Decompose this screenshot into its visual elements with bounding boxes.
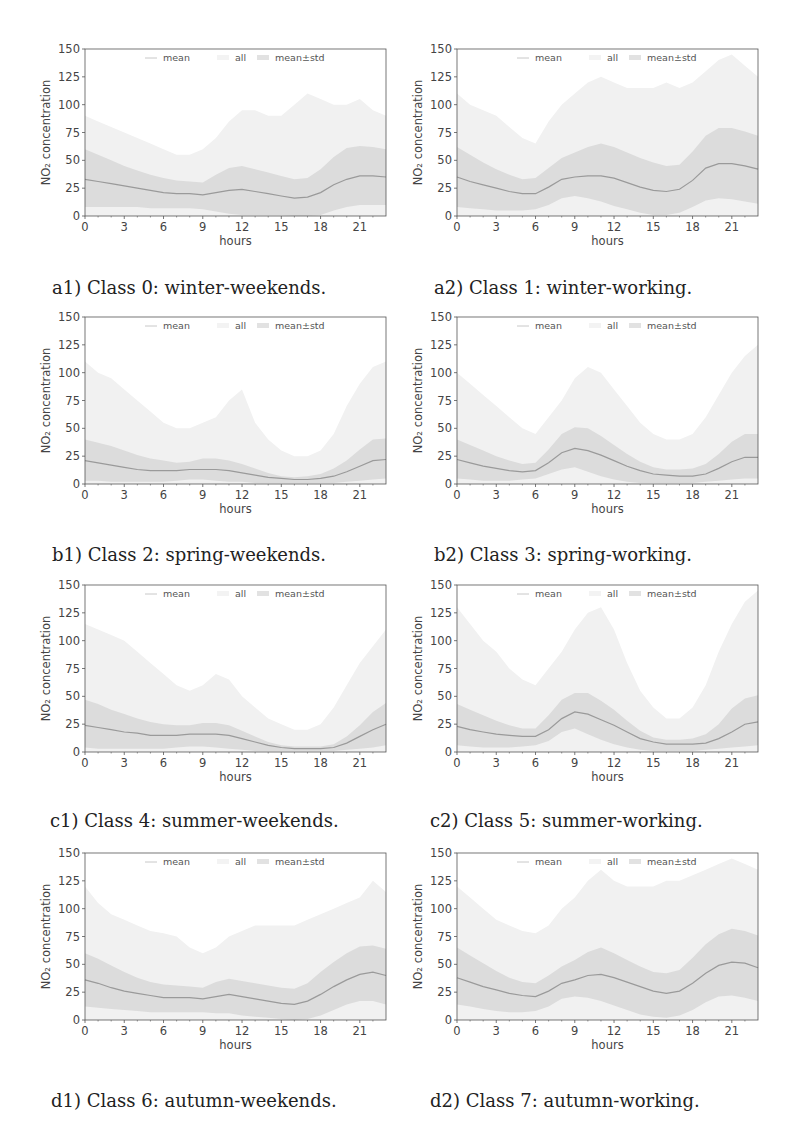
x-axis-label: hours: [591, 502, 623, 516]
x-tick-label: 0: [81, 1024, 88, 1038]
x-tick-label: 0: [453, 488, 460, 502]
legend: meanallmean±std: [517, 320, 697, 331]
svg-text:all: all: [235, 856, 246, 867]
y-tick-label: 75: [65, 394, 80, 408]
legend: meanallmean±std: [517, 856, 697, 867]
y-tick-label: 50: [65, 689, 80, 703]
x-tick-label: 6: [532, 488, 539, 502]
y-tick-label: 75: [437, 930, 452, 944]
y-tick-label: 150: [58, 42, 80, 56]
y-tick-label: 125: [430, 70, 452, 84]
x-tick-label: 21: [353, 488, 368, 502]
y-tick-label: 75: [437, 126, 452, 140]
y-tick-label: 150: [430, 310, 452, 324]
caption-b2: b2) Class 3: spring-working.: [434, 544, 692, 565]
x-tick-label: 6: [160, 488, 167, 502]
svg-text:all: all: [607, 52, 618, 63]
y-tick-label: 150: [430, 42, 452, 56]
svg-text:mean: mean: [163, 588, 190, 599]
y-tick-label: 75: [65, 930, 80, 944]
y-tick-label: 50: [65, 421, 80, 435]
x-tick-label: 3: [121, 220, 128, 234]
y-tick-label: 25: [65, 181, 80, 195]
panel-d2: 0255075100125150036912151821hoursNO₂ con…: [400, 840, 800, 1120]
x-tick-label: 21: [353, 756, 368, 770]
x-tick-label: 9: [571, 756, 578, 770]
x-tick-label: 21: [725, 220, 740, 234]
svg-text:all: all: [607, 856, 618, 867]
y-axis-label: NO₂ concentration: [411, 348, 425, 454]
y-tick-label: 100: [430, 634, 452, 648]
y-tick-label: 150: [430, 578, 452, 592]
svg-text:mean±std: mean±std: [647, 320, 697, 331]
y-tick-label: 0: [445, 1013, 452, 1027]
legend: meanallmean±std: [145, 320, 325, 331]
x-tick-label: 12: [607, 1024, 622, 1038]
y-tick-label: 50: [65, 153, 80, 167]
legend: meanallmean±std: [517, 52, 697, 63]
x-axis-label: hours: [219, 234, 251, 248]
y-tick-label: 50: [437, 153, 452, 167]
x-axis-label: hours: [591, 234, 623, 248]
chart-a2: 0255075100125150036912151821hoursNO₂ con…: [400, 36, 780, 276]
x-tick-label: 18: [313, 1024, 328, 1038]
svg-text:mean±std: mean±std: [275, 320, 325, 331]
y-tick-label: 75: [437, 394, 452, 408]
x-tick-label: 6: [532, 1024, 539, 1038]
x-tick-label: 15: [274, 756, 289, 770]
x-tick-label: 18: [685, 220, 700, 234]
x-tick-label: 6: [160, 1024, 167, 1038]
y-tick-label: 150: [430, 846, 452, 860]
x-axis-label: hours: [591, 1038, 623, 1052]
y-tick-label: 125: [58, 606, 80, 620]
x-tick-label: 12: [235, 756, 250, 770]
y-axis-label: NO₂ concentration: [411, 616, 425, 722]
panel-a2: 0255075100125150036912151821hoursNO₂ con…: [400, 36, 800, 316]
x-tick-label: 15: [646, 756, 661, 770]
y-tick-label: 50: [437, 689, 452, 703]
y-tick-label: 0: [445, 209, 452, 223]
x-axis-label: hours: [591, 770, 623, 784]
y-tick-label: 100: [58, 634, 80, 648]
y-tick-label: 0: [73, 745, 80, 759]
panel-d1: 0255075100125150036912151821hoursNO₂ con…: [28, 840, 428, 1120]
x-tick-label: 0: [81, 756, 88, 770]
y-tick-label: 100: [430, 902, 452, 916]
panel-b2: 0255075100125150036912151821hoursNO₂ con…: [400, 304, 800, 584]
x-tick-label: 21: [725, 488, 740, 502]
caption-d1: d1) Class 6: autumn-weekends.: [51, 1090, 337, 1111]
y-tick-label: 25: [65, 717, 80, 731]
svg-text:mean: mean: [535, 856, 562, 867]
x-tick-label: 0: [453, 1024, 460, 1038]
x-tick-label: 0: [81, 488, 88, 502]
y-tick-label: 125: [58, 70, 80, 84]
x-tick-label: 18: [313, 488, 328, 502]
svg-text:all: all: [607, 588, 618, 599]
x-tick-label: 3: [121, 1024, 128, 1038]
x-tick-label: 0: [453, 756, 460, 770]
y-axis-label: NO₂ concentration: [411, 884, 425, 990]
y-tick-label: 125: [58, 874, 80, 888]
x-tick-label: 15: [646, 1024, 661, 1038]
x-tick-label: 12: [607, 488, 622, 502]
x-tick-label: 6: [160, 756, 167, 770]
x-tick-label: 9: [199, 756, 206, 770]
x-tick-label: 3: [121, 488, 128, 502]
y-tick-label: 25: [437, 985, 452, 999]
y-tick-label: 150: [58, 578, 80, 592]
y-axis-label: NO₂ concentration: [411, 80, 425, 186]
legend: meanallmean±std: [145, 588, 325, 599]
svg-text:all: all: [607, 320, 618, 331]
y-tick-label: 50: [437, 421, 452, 435]
x-tick-label: 3: [493, 220, 500, 234]
x-tick-label: 3: [493, 756, 500, 770]
x-tick-label: 18: [685, 756, 700, 770]
chart-c1: 0255075100125150036912151821hoursNO₂ con…: [28, 572, 408, 812]
chart-a1: 0255075100125150036912151821hoursNO₂ con…: [28, 36, 408, 276]
x-tick-label: 15: [646, 220, 661, 234]
x-tick-label: 12: [607, 756, 622, 770]
x-tick-label: 6: [532, 220, 539, 234]
y-axis-label: NO₂ concentration: [39, 348, 53, 454]
y-tick-label: 125: [430, 874, 452, 888]
x-tick-label: 18: [685, 1024, 700, 1038]
